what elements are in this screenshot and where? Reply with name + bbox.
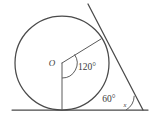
external-angle-arc [126, 96, 134, 110]
geometry-figure: O 120° 60° x [0, 0, 160, 125]
unknown-angle-label-x: x [123, 101, 127, 108]
external-angle-label: 60° [102, 94, 116, 104]
geometry-canvas: O 120° 60° x [0, 0, 160, 125]
center-label-o: O [49, 58, 56, 68]
central-angle-label: 120° [78, 62, 96, 72]
radius-to-tangent-point [62, 39, 101, 63]
